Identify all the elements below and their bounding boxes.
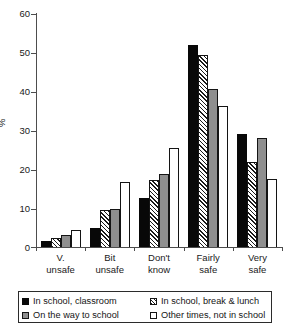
x-tick-mark (134, 247, 135, 251)
bar (257, 138, 267, 247)
legend-label: In school, break & lunch (161, 296, 259, 306)
bar (139, 198, 149, 247)
bar (267, 179, 277, 247)
bar (110, 209, 120, 247)
x-tick-mark (233, 247, 234, 251)
bar (188, 45, 198, 247)
bar (159, 174, 169, 247)
y-tick-label-60: 60 (0, 9, 30, 18)
x-tick-mark (85, 247, 86, 251)
bar (51, 238, 61, 247)
x-tick-mark (282, 247, 283, 251)
legend-swatch-icon (22, 298, 29, 305)
bar-group-bars (90, 14, 130, 247)
y-tick-label-0: 0 (0, 243, 30, 252)
y-tick-label-20: 20 (0, 165, 30, 174)
bar (237, 134, 247, 247)
bar-chart: % 60 50 40 30 20 10 0 V.unsafeBitunsafeD… (0, 0, 295, 336)
legend-label: In school, classroom (33, 296, 117, 306)
bar (71, 230, 81, 247)
bar (100, 210, 110, 247)
legend-swatch-icon (22, 312, 29, 319)
legend: In school, classroom In school, break & … (18, 291, 272, 323)
bar-group-bars (237, 14, 277, 247)
bar (90, 228, 100, 247)
x-axis-line (36, 247, 283, 248)
bar (247, 162, 257, 247)
legend-swatch-icon (150, 298, 157, 305)
x-tick-mark (184, 247, 185, 251)
legend-label: On the way to school (33, 310, 119, 320)
x-axis-label: Bitunsafe (85, 252, 134, 275)
plot-area (36, 14, 282, 247)
legend-item-on-the-way-to-school: On the way to school (22, 308, 150, 322)
bar (120, 182, 130, 247)
legend-swatch-icon (150, 312, 157, 319)
x-axis-label: Fairlysafe (184, 252, 233, 275)
bar (41, 241, 51, 247)
legend-item-in-school-break-lunch: In school, break & lunch (150, 294, 270, 308)
bar-group-bars (41, 14, 81, 247)
bar (149, 180, 159, 247)
x-axis-label: Don'tknow (134, 252, 183, 275)
y-tick-label-40: 40 (0, 87, 30, 96)
bar (198, 55, 208, 247)
y-tick-label-10: 10 (0, 204, 30, 213)
bar (169, 148, 179, 247)
x-axis-label: Verysafe (233, 252, 282, 275)
bar-group-bars (188, 14, 228, 247)
bar (61, 235, 71, 247)
legend-item-other-times-not-in-school: Other times, not in school (150, 308, 270, 322)
y-tick-label-50: 50 (0, 48, 30, 57)
y-tick-label-30: 30 (0, 126, 30, 135)
bar-group-bars (139, 14, 179, 247)
x-axis-label: V.unsafe (36, 252, 85, 275)
legend-label: Other times, not in school (161, 310, 265, 320)
bar (218, 106, 228, 247)
x-tick-mark (36, 247, 37, 251)
bar (208, 89, 218, 247)
legend-item-in-school-classroom: In school, classroom (22, 294, 150, 308)
